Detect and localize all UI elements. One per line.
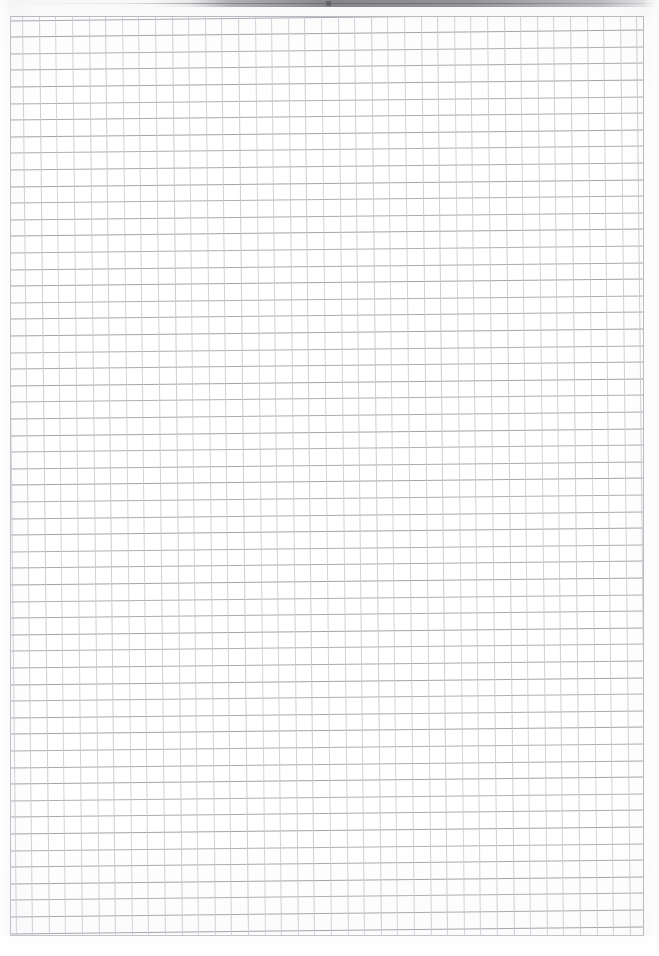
grid-line-horizontal: [10, 228, 644, 236]
grid-line-horizontal: [10, 677, 644, 685]
grid-line-vertical: [421, 16, 432, 936]
grid-line-horizontal: [10, 843, 644, 851]
grid-line-horizontal: [10, 809, 644, 817]
grid-line-horizontal: [10, 361, 644, 369]
scanned-page: [0, 0, 659, 956]
grid-line-horizontal: [10, 394, 644, 402]
grid-line-vertical: [105, 16, 116, 936]
grid-line-vertical: [404, 16, 415, 936]
grid-line-vertical: [338, 16, 349, 936]
grid-line-horizontal: [10, 278, 644, 286]
grid-line-vertical: [603, 16, 614, 936]
grid-line-vertical: [89, 16, 100, 936]
grid-line-horizontal: [10, 345, 644, 353]
grid-line-horizontal: [10, 428, 644, 436]
grid-line-horizontal: [10, 328, 644, 336]
grid-line-horizontal: [10, 179, 644, 187]
grid-line-horizontal: [10, 461, 644, 469]
grid-line-vertical: [22, 16, 33, 936]
grid-line-horizontal: [10, 859, 644, 867]
grid-line-horizontal: [10, 693, 644, 701]
page-bottom-margin: [0, 936, 659, 956]
grid-line-vertical: [437, 16, 448, 936]
grid-line-horizontal: [10, 876, 644, 884]
grid-line-horizontal: [10, 245, 644, 253]
grid-line-horizontal: [10, 262, 644, 270]
grid-line-vertical: [10, 16, 17, 936]
grid-area: [10, 16, 644, 936]
grid-line-horizontal: [10, 760, 644, 768]
grid-line-horizontal: [10, 378, 644, 386]
grid-line-horizontal: [10, 129, 644, 137]
grid-skew-wrapper: [10, 16, 644, 936]
grid-line-vertical: [354, 16, 365, 936]
grid-line-vertical: [72, 16, 83, 936]
grid-line-horizontal: [10, 926, 644, 934]
grid-line-horizontal: [10, 826, 644, 834]
grid-line-vertical: [636, 16, 644, 936]
grid-line-vertical: [371, 16, 382, 936]
grid-line-horizontal: [10, 444, 644, 452]
grid-line-horizontal: [10, 776, 644, 784]
grid-line-horizontal: [10, 411, 644, 419]
grid-line-horizontal: [10, 909, 644, 917]
grid-line-vertical: [504, 16, 515, 936]
grid-line-vertical: [454, 16, 465, 936]
grid-line-horizontal: [10, 793, 644, 801]
grid-line-vertical: [553, 16, 564, 936]
grid-line-horizontal: [10, 295, 644, 303]
grid-line-horizontal: [10, 660, 644, 668]
grid-line-vertical: [39, 16, 50, 936]
grid-line-horizontal: [10, 162, 644, 170]
grid-line-vertical: [620, 16, 631, 936]
grid-line-vertical: [387, 16, 398, 936]
grid-line-horizontal: [10, 726, 644, 734]
grid-line-horizontal: [10, 710, 644, 718]
grid-line-vertical: [470, 16, 481, 936]
grid-line-vertical: [520, 16, 531, 936]
grid-line-vertical: [55, 16, 66, 936]
grid-line-horizontal: [10, 892, 644, 900]
grid-line-vertical: [122, 16, 133, 936]
grid-line-horizontal: [10, 212, 644, 220]
grid-line-horizontal: [10, 145, 644, 153]
grid-line-horizontal: [10, 311, 644, 319]
grid-line-horizontal: [10, 195, 644, 203]
grid-line-vertical: [587, 16, 598, 936]
grid-line-vertical: [537, 16, 548, 936]
scan-edge-nick-mark: [326, 1, 331, 6]
grid-line-horizontal: [10, 743, 644, 751]
grid-line-vertical: [487, 16, 498, 936]
grid-line-vertical: [570, 16, 581, 936]
